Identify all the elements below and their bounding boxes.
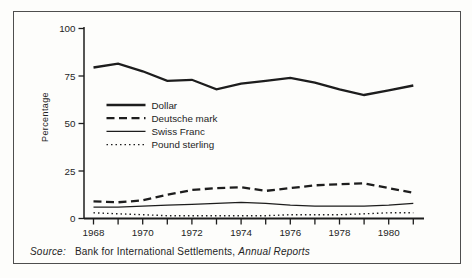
series-line-pound-sterling xyxy=(94,213,414,216)
y-tick-label: 100 xyxy=(59,23,76,34)
series-line-swiss-franc xyxy=(94,202,414,207)
x-tick-label: 1976 xyxy=(279,227,301,238)
x-tick-label: 1980 xyxy=(378,227,400,238)
x-tick-label: 1970 xyxy=(132,227,154,238)
source-publication: Annual Reports xyxy=(238,246,310,257)
series-line-deutsche-mark xyxy=(94,183,414,202)
y-ticks: 0255075100 xyxy=(59,23,84,224)
legend-label: Pound sterling xyxy=(152,139,215,150)
source-label: Source: xyxy=(30,246,66,257)
x-tick-label: 1974 xyxy=(230,227,252,238)
x-ticks: 1968197019721974197619781980 xyxy=(83,219,414,239)
source-publisher: Bank for International Settlements, xyxy=(75,246,235,257)
source-line: Source:Bank for International Settlement… xyxy=(30,246,310,257)
legend-label: Dollar xyxy=(152,100,178,111)
y-axis-title: Percentage xyxy=(40,92,50,142)
currency-share-line-chart: 02550751001968197019721974197619781980Do… xyxy=(0,0,472,278)
x-tick-label: 1978 xyxy=(329,227,351,238)
legend-label: Deutsche mark xyxy=(152,113,218,124)
y-tick-label: 75 xyxy=(65,71,76,82)
y-tick-label: 0 xyxy=(70,213,76,224)
series-line-dollar xyxy=(94,64,414,95)
figure-page: 02550751001968197019721974197619781980Do… xyxy=(0,0,472,278)
y-tick-label: 25 xyxy=(65,166,76,177)
y-tick-label: 50 xyxy=(65,118,76,129)
legend-label: Swiss Franc xyxy=(152,126,205,137)
axes xyxy=(84,27,424,219)
series-lines xyxy=(94,64,414,216)
x-tick-label: 1968 xyxy=(83,227,105,238)
x-tick-label: 1972 xyxy=(181,227,203,238)
legend: DollarDeutsche markSwiss FrancPound ster… xyxy=(107,100,218,151)
